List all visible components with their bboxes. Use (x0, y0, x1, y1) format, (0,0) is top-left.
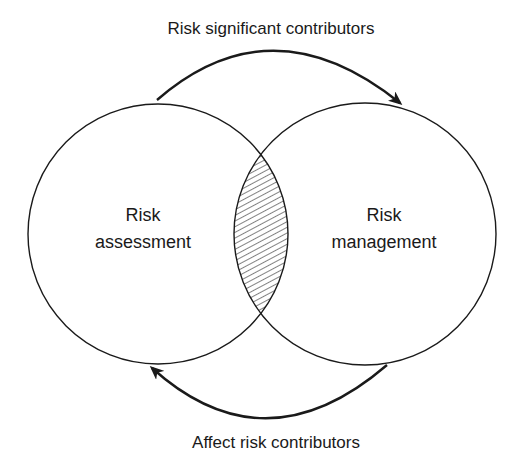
left-circle-label-line2: assessment (95, 232, 191, 252)
bottom-arrow (152, 365, 387, 418)
top-arrow (157, 51, 400, 103)
bottom-arrow-label: Affect risk contributors (192, 433, 360, 452)
top-arrow-label: Risk significant contributors (168, 19, 375, 38)
left-circle-label-line1: Risk (126, 205, 162, 225)
right-circle-label-line2: management (331, 232, 436, 252)
right-circle-label-line1: Risk (367, 205, 403, 225)
venn-diagram: Risk significant contributors Affect ris… (0, 0, 522, 465)
